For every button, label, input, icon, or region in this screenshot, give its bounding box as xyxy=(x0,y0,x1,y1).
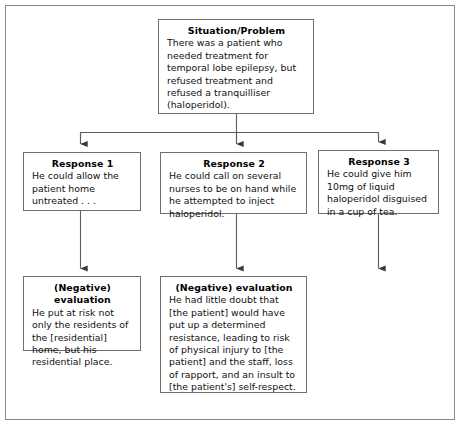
node-response-2-body: He could call on several nurses to be on… xyxy=(169,170,299,220)
node-response-3-title: Response 3 xyxy=(327,156,431,168)
node-response-3-body: He could give him 10mg of liquid haloper… xyxy=(327,168,431,218)
node-evaluation-1: (Negative) evaluation He put at risk not… xyxy=(23,276,141,351)
node-evaluation-2-title: (Negative) evaluation xyxy=(169,282,299,294)
node-situation-problem-body: There was a patient who needed treatment… xyxy=(167,37,306,111)
node-response-3: Response 3 He could give him 10mg of liq… xyxy=(318,150,439,214)
node-evaluation-1-title: (Negative) evaluation xyxy=(32,282,133,307)
node-evaluation-1-body: He put at risk not only the residents of… xyxy=(32,307,133,369)
diagram-canvas: Situation/Problem There was a patient wh… xyxy=(0,0,468,431)
node-evaluation-2: (Negative) evaluation He had little doub… xyxy=(160,276,307,393)
node-response-1-body: He could allow the patient home untreate… xyxy=(32,170,133,207)
node-situation-problem: Situation/Problem There was a patient wh… xyxy=(158,19,314,114)
node-evaluation-2-body: He had little doubt that [the patient] w… xyxy=(169,294,299,393)
node-response-1-title: Response 1 xyxy=(32,158,133,170)
node-response-1: Response 1 He could allow the patient ho… xyxy=(23,152,141,211)
node-response-2-title: Response 2 xyxy=(169,158,299,170)
node-response-2: Response 2 He could call on several nurs… xyxy=(160,152,307,214)
node-situation-problem-title: Situation/Problem xyxy=(167,25,306,37)
